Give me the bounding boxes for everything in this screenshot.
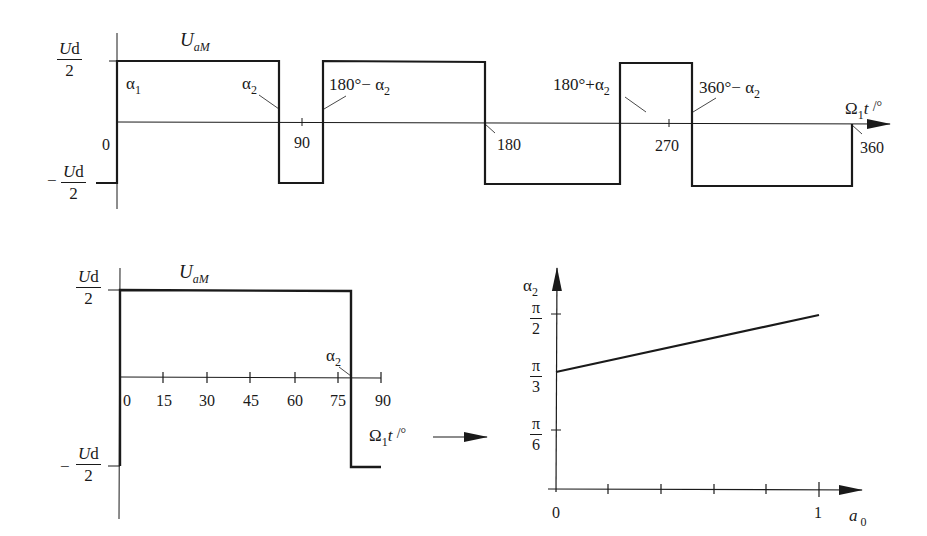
bl-y-high-label: Ud 2 [76, 268, 101, 307]
bl-y-low-num: U [78, 444, 90, 463]
top-annotation-180-minus-alpha2: 180°− α2 [329, 76, 390, 93]
top-y-low-num: U [63, 162, 75, 181]
br-y-axis [556, 268, 557, 492]
top-y-low-den: 2 [69, 183, 78, 202]
top-y-high-num-sub: d [71, 39, 80, 58]
br-y-tick-pi-2: π 2 [530, 300, 542, 337]
bl-tick-label-45: 45 [243, 393, 259, 409]
br-y-tick-pi-3-num: π [530, 358, 542, 377]
bl-y-high-den: 2 [84, 288, 93, 307]
top-tick-label-270: 270 [655, 138, 679, 154]
top-x-var: t [864, 99, 869, 118]
leader-alpha2 [259, 95, 279, 109]
br-x-axis [548, 489, 862, 490]
br-y-tick-pi-6: π 6 [530, 416, 542, 453]
top-signal-label: UaM [180, 30, 210, 49]
bl-x-axis-label: Ω1t /° [369, 427, 406, 444]
leader-360-minus-alpha2 [693, 98, 716, 112]
a360m-main: 360°− α [699, 78, 754, 97]
a180p-sub: 2 [604, 84, 610, 98]
bl-tick-label-75: 75 [330, 393, 346, 409]
a180m-main: 180°− α [329, 75, 384, 94]
top-x-axis-label: Ω1t /° [845, 100, 882, 117]
leader-180-plus-alpha2 [625, 97, 646, 112]
br-x-tick-label-0: 0 [552, 505, 560, 521]
br-y-tick-pi-3: π 3 [530, 358, 542, 395]
bl-y-high-num: U [78, 267, 90, 286]
top-tick-label-90: 90 [294, 135, 310, 151]
br-y-axis-label: α2 [523, 277, 538, 294]
bl-alpha2-sub: 2 [335, 355, 341, 369]
bl-x-omega: Ω [369, 426, 382, 445]
a360m-sub: 2 [754, 87, 760, 101]
top-x-unit: /° [873, 99, 883, 114]
bl-x-unit: /° [397, 426, 407, 441]
top-annotation-alpha1: α1 [126, 75, 141, 92]
top-y-low-sign: − [47, 171, 57, 191]
a180m-sub: 2 [384, 84, 390, 98]
alpha2-main: α [242, 74, 251, 93]
top-x-omega-sub: 1 [858, 108, 864, 122]
br-y-tick-pi-2-num: π [530, 300, 542, 319]
top-tick-label-0: 0 [102, 137, 110, 153]
bl-x-omega-sub: 1 [382, 435, 388, 449]
leader-180-minus-alpha2 [324, 96, 346, 109]
bl-tick-label-0: 0 [123, 393, 131, 409]
bl-y-low-sign: − [60, 457, 70, 477]
top-y-low-num-sub: d [75, 162, 84, 181]
bl-y-low-den: 2 [84, 465, 93, 484]
top-y-high-num: U [59, 39, 71, 58]
alpha1-main: α [126, 74, 135, 93]
br-x-a-sub: 0 [861, 515, 867, 529]
bl-signal-label-sub: aM [193, 272, 209, 286]
bl-y-low-label: Ud 2 [76, 445, 101, 484]
leader-360 [852, 125, 862, 134]
top-annotation-180-plus-alpha2: 180°+α2 [553, 76, 610, 93]
a180p-main: 180°+α [553, 75, 604, 94]
br-x-axis-label: a0 [849, 507, 867, 524]
br-x-tick-label-1: 1 [814, 505, 822, 521]
bl-y-low-num-sub: d [90, 444, 99, 463]
br-alpha2-curve [556, 315, 819, 372]
bl-x-var: t [388, 426, 393, 445]
top-signal-label-main: U [180, 29, 194, 50]
top-y-low-label: Ud 2 [61, 163, 86, 202]
top-annotation-alpha2: α2 [242, 75, 257, 92]
br-y-tick-pi-6-den: 6 [532, 435, 540, 453]
br-y-tick-pi-2-den: 2 [532, 319, 540, 337]
top-x-axis [117, 122, 890, 124]
top-signal-label-sub: aM [194, 40, 210, 54]
bl-signal-label-main: U [179, 261, 193, 282]
top-tick-label-180: 180 [497, 137, 521, 153]
top-y-high-label: Ud 2 [57, 40, 82, 79]
br-y-alpha-sub: 2 [532, 285, 538, 299]
br-y-alpha: α [523, 276, 532, 295]
top-annotation-360-minus-alpha2: 360°− α2 [699, 79, 760, 96]
alpha1-sub: 1 [135, 83, 141, 97]
top-chart [96, 33, 890, 209]
leader-180 [485, 124, 495, 133]
top-tick-label-360: 360 [860, 140, 884, 156]
bottom-right-chart [548, 268, 862, 497]
br-y-tick-pi-6-num: π [530, 416, 542, 435]
bl-tick-label-30: 30 [199, 393, 215, 409]
top-x-omega: Ω [845, 99, 858, 118]
top-y-high-den: 2 [65, 60, 74, 79]
br-x-a: a [849, 506, 858, 525]
bl-alpha2-main: α [326, 346, 335, 365]
br-y-tick-pi-3-den: 3 [532, 377, 540, 395]
bl-tick-label-60: 60 [287, 393, 303, 409]
bl-tick-label-90: 90 [375, 393, 391, 409]
bl-signal-label: UaM [179, 262, 209, 281]
bl-annotation-alpha2: α2 [326, 347, 341, 364]
bl-tick-label-15: 15 [156, 393, 172, 409]
bl-y-high-num-sub: d [90, 267, 99, 286]
alpha2-sub: 2 [251, 83, 257, 97]
